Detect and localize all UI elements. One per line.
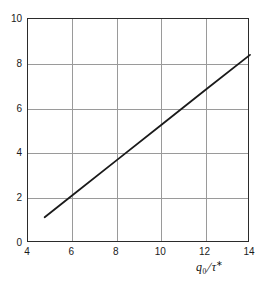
y-tick-label-2: 2 [2,193,22,203]
x-axis-title-denominator-superscript: ∗ [216,259,223,268]
x-tick-label-8: 8 [104,247,128,257]
chart-figure: 10 8 6 4 2 0 4 6 8 10 12 14 q0/τ∗ [0,0,267,291]
data-curve [28,19,250,243]
x-axis-title-numerator: q [196,260,202,274]
y-tick-label-4: 4 [2,148,22,158]
x-axis-title: q0/τ∗ [196,259,223,275]
x-tick-label-10: 10 [148,247,172,257]
x-tick-label-14: 14 [237,247,261,257]
plot-area [27,18,249,242]
y-tick-label-8: 8 [2,59,22,69]
y-tick-label-6: 6 [2,104,22,114]
x-tick-label-12: 12 [193,247,217,257]
series-line-0 [45,55,250,217]
x-tick-label-4: 4 [15,247,39,257]
x-tick-label-6: 6 [59,247,83,257]
y-tick-label-10: 10 [2,14,22,24]
